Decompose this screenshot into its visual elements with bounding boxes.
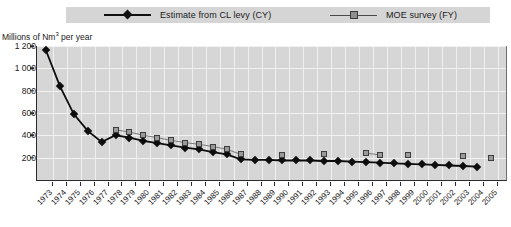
- plot-area: [36, 46, 507, 181]
- y-axis-tick-mark: [30, 112, 34, 114]
- x-axis-tick-mark: [205, 182, 206, 186]
- x-axis-tick-mark: [469, 182, 470, 186]
- x-axis-tick-mark: [135, 182, 136, 186]
- y-axis-tick-mark: [30, 90, 34, 92]
- data-point: [279, 152, 285, 158]
- data-point: [168, 137, 174, 143]
- x-axis-tick-mark: [274, 182, 275, 186]
- legend-line-icon: [330, 7, 377, 23]
- x-axis-tick-mark: [233, 182, 234, 186]
- data-point: [405, 152, 411, 158]
- legend-label: MOE survey (FY): [386, 10, 457, 20]
- x-axis-tick-mark: [302, 182, 303, 186]
- square-marker-icon: [350, 11, 358, 19]
- data-point: [113, 127, 119, 133]
- chart-figure: Estimate from CL levy (CY) MOE survey (F…: [0, 0, 511, 227]
- x-axis-tick-mark: [427, 182, 428, 186]
- data-point: [377, 152, 383, 158]
- legend-item-moe-survey: MOE survey (FY): [330, 7, 457, 23]
- x-axis-tick-mark: [149, 182, 150, 186]
- data-point: [126, 129, 132, 135]
- data-point: [488, 155, 494, 161]
- x-axis-tick-mark: [108, 182, 109, 186]
- y-axis-tick-mark: [30, 45, 34, 47]
- x-axis-tick-mark: [261, 182, 262, 186]
- data-point: [238, 151, 244, 157]
- x-axis-tick-mark: [177, 182, 178, 186]
- data-point: [224, 146, 230, 152]
- legend-item-estimate-cl-levy: Estimate from CL levy (CY): [104, 7, 271, 23]
- cropped-title-strip: [0, 0, 511, 6]
- x-axis-tick-mark: [66, 182, 67, 186]
- data-point: [210, 144, 216, 150]
- x-axis-tick-mark: [94, 182, 95, 186]
- x-axis-tick-mark: [121, 182, 122, 186]
- x-axis-tick-mark: [483, 182, 484, 186]
- x-axis-tick-mark: [414, 182, 415, 186]
- diamond-marker-icon: [123, 10, 133, 20]
- y-axis-tick-mark: [30, 68, 34, 70]
- data-point: [196, 141, 202, 147]
- data-point: [363, 150, 369, 156]
- x-axis-tick-mark: [386, 182, 387, 186]
- x-axis-tick-mark: [372, 182, 373, 186]
- x-axis-tick-mark: [191, 182, 192, 186]
- chart-legend: Estimate from CL levy (CY) MOE survey (F…: [66, 7, 490, 23]
- legend-label: Estimate from CL levy (CY): [160, 10, 271, 20]
- data-point: [140, 132, 146, 138]
- x-axis-tick-mark: [400, 182, 401, 186]
- x-axis-tick-mark: [80, 182, 81, 186]
- x-axis-tick-mark: [163, 182, 164, 186]
- x-axis-tick-mark: [52, 182, 53, 186]
- data-point: [154, 135, 160, 141]
- x-axis-tick-mark: [219, 182, 220, 186]
- x-axis-tick-mark: [455, 182, 456, 186]
- x-axis-tick-mark: [316, 182, 317, 186]
- legend-line-icon: [104, 7, 151, 23]
- data-point: [460, 153, 466, 159]
- data-point: [321, 151, 327, 157]
- x-axis-tick-mark: [247, 182, 248, 186]
- series-lines: [37, 46, 337, 196]
- x-axis-tick-mark: [441, 182, 442, 186]
- x-axis-tick-label: 2005: [480, 188, 499, 207]
- x-axis: 1973197419751976197719781979198019811982…: [0, 182, 511, 227]
- data-point: [182, 140, 188, 146]
- x-axis-tick-mark: [330, 182, 331, 186]
- x-axis-tick-mark: [344, 182, 345, 186]
- x-axis-tick-mark: [497, 182, 498, 186]
- y-axis-tick-mark: [30, 135, 34, 137]
- y-axis-tick-mark: [30, 157, 34, 159]
- x-axis-tick-mark: [288, 182, 289, 186]
- x-axis-tick-mark: [358, 182, 359, 186]
